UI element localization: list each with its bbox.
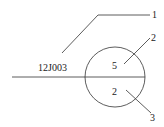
index-symbol-diagram: 12J003 5 2 1 2 3 xyxy=(0,0,164,127)
reference-code: 12J003 xyxy=(38,62,67,73)
diagram-svg: 12J003 5 2 1 2 3 xyxy=(0,0,164,127)
circle-lower-value: 2 xyxy=(112,86,117,97)
leader-line-2 xyxy=(124,38,150,64)
callout-3: 3 xyxy=(150,112,155,123)
leader-line-1 xyxy=(62,15,150,53)
circle-upper-value: 5 xyxy=(112,60,117,71)
callout-2: 2 xyxy=(151,32,156,43)
leader-line-3 xyxy=(126,90,151,113)
callout-1: 1 xyxy=(152,9,157,20)
